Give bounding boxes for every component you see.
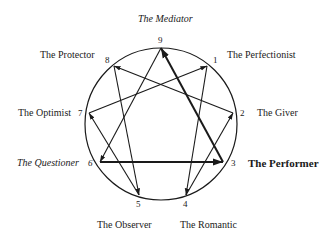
label-romantic: The Romantic	[180, 220, 237, 230]
point-number-7: 7	[78, 109, 83, 118]
label-optimist: The Optimist	[18, 108, 71, 118]
point-number-1: 1	[213, 56, 218, 65]
label-giver: The Giver	[257, 108, 298, 118]
connection-8-5	[114, 66, 139, 195]
point-number-6: 6	[88, 159, 93, 168]
label-mediator: The Mediator	[138, 14, 193, 24]
enneagram-circle	[85, 48, 237, 200]
enneagram-diagram: 9 1 2 3 4 5 6 7 8 The Mediator The Perfe…	[0, 0, 333, 235]
label-observer: The Observer	[97, 220, 152, 230]
label-questioner: The Questioner	[17, 158, 79, 168]
point-number-9: 9	[158, 36, 163, 45]
point-number-5: 5	[136, 200, 141, 209]
label-performer: The Performer	[248, 158, 319, 169]
label-perfectionist: The Perfectionist	[227, 50, 296, 60]
point-number-8: 8	[105, 56, 110, 65]
point-number-2: 2	[240, 109, 245, 118]
point-number-3: 3	[231, 159, 236, 168]
label-protector: The Protector	[40, 50, 95, 60]
point-number-4: 4	[183, 200, 188, 209]
